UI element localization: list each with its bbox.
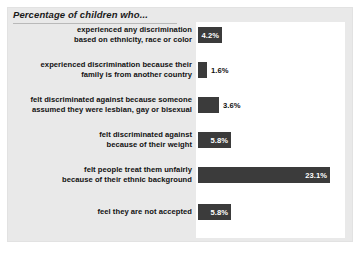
bar-row-label: felt discriminated against because someo… bbox=[0, 95, 196, 114]
bar-area: 5.8% bbox=[198, 204, 231, 220]
bar[interactable]: 5.8% bbox=[198, 132, 231, 148]
bar-row-label-line1: felt people treat them unfairly bbox=[0, 165, 192, 175]
bar-area: 5.8% bbox=[198, 132, 231, 148]
bar-row: experienced any discriminationbased on e… bbox=[0, 22, 362, 48]
bar-rows: experienced any discriminationbased on e… bbox=[0, 22, 362, 238]
bar-value-label: 3.6% bbox=[219, 101, 241, 110]
bar[interactable] bbox=[198, 62, 207, 78]
bar-area: 4.2% bbox=[198, 27, 222, 43]
bar[interactable]: 5.8% bbox=[198, 204, 231, 220]
bar-row-label: felt people treat them unfairlybecause o… bbox=[0, 165, 196, 184]
bar-value-label: 23.1% bbox=[305, 171, 330, 180]
bar[interactable] bbox=[198, 97, 219, 113]
bar-value-label: 1.6% bbox=[207, 66, 229, 75]
bar-value-label: 5.8% bbox=[210, 136, 231, 145]
bar-row-label-line2: because of their ethnic background bbox=[0, 175, 192, 185]
bar-row-label-line2: assumed they were lesbian, gay or bisexu… bbox=[0, 105, 192, 115]
bar-area: 3.6% bbox=[198, 97, 241, 113]
bar-row-label: experienced discrimination because their… bbox=[0, 60, 196, 79]
chart-title: Percentage of children who... bbox=[13, 9, 333, 21]
bar-row: feel they are not accepted5.8% bbox=[0, 199, 362, 225]
bar-row-label-line2: because of their weight bbox=[0, 140, 192, 150]
bar-value-label: 5.8% bbox=[210, 208, 231, 217]
bar-row-label: feel they are not accepted bbox=[0, 207, 196, 217]
bar-row-label-line1: feel they are not accepted bbox=[0, 207, 192, 217]
bar-row: felt discriminated againstbecause of the… bbox=[0, 127, 362, 153]
bar-row-label-line2: based on ethnicity, race or color bbox=[0, 35, 192, 45]
bar-row-label-line1: experienced discrimination because their bbox=[0, 60, 192, 70]
bar[interactable]: 23.1% bbox=[198, 167, 330, 183]
bar-row: experienced discrimination because their… bbox=[0, 57, 362, 83]
bar-row-label-line1: experienced any discrimination bbox=[0, 25, 192, 35]
bar-row-label-line2: family is from another country bbox=[0, 70, 192, 80]
bar-row-label: felt discriminated againstbecause of the… bbox=[0, 130, 196, 149]
bar-area: 1.6% bbox=[198, 62, 229, 78]
bar-value-label: 4.2% bbox=[201, 31, 222, 40]
bar-row-label: experienced any discriminationbased on e… bbox=[0, 25, 196, 44]
bar-row-label-line1: felt discriminated against bbox=[0, 130, 192, 140]
bar[interactable]: 4.2% bbox=[198, 27, 222, 43]
bar-row: felt people treat them unfairlybecause o… bbox=[0, 162, 362, 188]
bar-row-label-line1: felt discriminated against because someo… bbox=[0, 95, 192, 105]
chart-figure: Percentage of children who... experience… bbox=[0, 0, 362, 257]
bar-row: felt discriminated against because someo… bbox=[0, 92, 362, 118]
bar-area: 23.1% bbox=[198, 167, 330, 183]
